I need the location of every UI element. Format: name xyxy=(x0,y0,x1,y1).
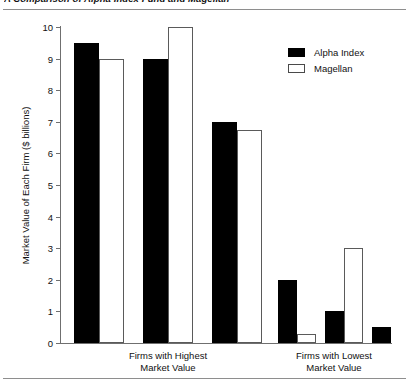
y-tick-mark-8 xyxy=(56,90,61,91)
y-tick-mark-3 xyxy=(56,248,61,249)
legend-label-alpha-index: Alpha Index xyxy=(314,47,364,58)
figure-title: A Comparison of Alpha Index Fund and Mag… xyxy=(4,0,404,4)
legend-swatch-filled-icon xyxy=(288,48,305,57)
bar-highest-2-alpha xyxy=(143,59,168,343)
x-group-label-highest-line1: Firms with Highest xyxy=(113,350,223,362)
figure-container: A Comparison of Alpha Index Fund and Mag… xyxy=(0,0,409,388)
y-tick-label-1: 1 xyxy=(48,306,53,317)
y-tick-label-5: 5 xyxy=(48,180,53,191)
x-group-label-lowest-line2: Market Value xyxy=(279,362,389,374)
y-tick-label-7: 7 xyxy=(48,116,53,127)
y-tick-mark-6 xyxy=(56,153,61,154)
bar-lowest-1-magellan xyxy=(297,334,316,343)
y-tick-label-3: 3 xyxy=(48,243,53,254)
y-tick-label-4: 4 xyxy=(48,211,53,222)
y-tick-mark-0 xyxy=(56,343,61,344)
y-tick-mark-7 xyxy=(56,122,61,123)
x-group-label-lowest: Firms with Lowest Market Value xyxy=(279,350,389,374)
legend-label-magellan: Magellan xyxy=(314,63,353,74)
chart-legend: Alpha Index Magellan xyxy=(288,44,364,76)
bar-lowest-2-magellan xyxy=(344,248,363,343)
y-tick-label-8: 8 xyxy=(48,85,53,96)
y-tick-mark-10 xyxy=(56,27,61,28)
y-tick-mark-5 xyxy=(56,185,61,186)
bar-highest-3-magellan xyxy=(237,130,262,343)
legend-item-magellan: Magellan xyxy=(288,60,364,76)
legend-item-alpha-index: Alpha Index xyxy=(288,44,364,60)
y-tick-label-10: 10 xyxy=(42,22,53,33)
y-tick-mark-4 xyxy=(56,217,61,218)
x-axis-line xyxy=(60,343,392,344)
y-tick-mark-1 xyxy=(56,311,61,312)
y-axis-title: Market Value of Each Firm ($ billions) xyxy=(20,66,31,306)
legend-swatch-open-icon xyxy=(288,64,305,73)
y-tick-label-0: 0 xyxy=(48,338,53,349)
y-tick-label-2: 2 xyxy=(48,274,53,285)
y-tick-mark-9 xyxy=(56,59,61,60)
bar-lowest-2-alpha xyxy=(325,311,344,343)
x-group-label-lowest-line1: Firms with Lowest xyxy=(279,350,389,362)
bar-lowest-3-alpha xyxy=(372,327,391,343)
bar-lowest-1-alpha xyxy=(278,280,297,343)
bar-highest-3-alpha xyxy=(212,122,237,343)
bar-highest-1-magellan xyxy=(99,59,124,343)
y-tick-label-9: 9 xyxy=(48,53,53,64)
x-group-label-highest: Firms with Highest Market Value xyxy=(113,350,223,374)
bar-highest-1-alpha xyxy=(74,43,99,343)
bottom-rule xyxy=(3,378,406,379)
top-rule xyxy=(3,9,406,10)
y-tick-label-6: 6 xyxy=(48,148,53,159)
y-tick-mark-2 xyxy=(56,280,61,281)
x-group-label-highest-line2: Market Value xyxy=(113,362,223,374)
bar-highest-2-magellan xyxy=(168,27,193,343)
